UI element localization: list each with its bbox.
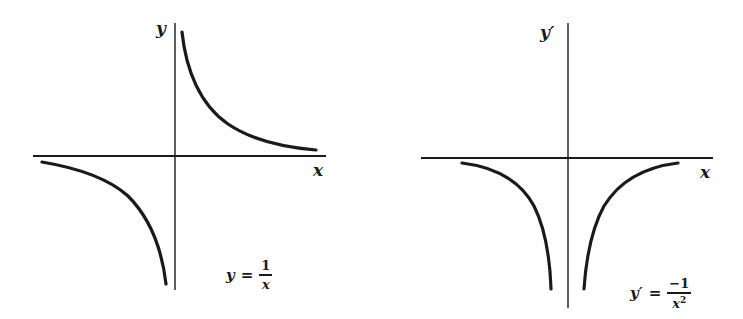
right-graph — [421, 23, 713, 308]
right-formula-denominator-base: x — [672, 296, 680, 311]
left-formula-denominator: x — [262, 276, 270, 292]
left-curve-upper-branch — [182, 32, 316, 150]
left-curve-lower-branch — [42, 162, 166, 284]
right-formula-numerator: −1 — [667, 276, 691, 292]
right-curve-left-branch — [462, 163, 551, 289]
right-formula-exponent: 2 — [680, 295, 686, 305]
right-x-axis-label: x — [700, 164, 710, 181]
left-graph — [33, 23, 326, 290]
left-formula-lhs: y — [226, 266, 235, 284]
right-formula-denominator: x2 — [672, 294, 686, 311]
right-formula-equals: = — [649, 284, 662, 302]
left-x-axis-label: x — [313, 162, 323, 179]
left-formula: y = 1 x — [226, 258, 272, 292]
left-formula-denominator-base: x — [262, 277, 270, 292]
right-formula-lhs: y′ — [630, 284, 643, 302]
right-y-axis-label: y′ — [540, 24, 554, 41]
right-formula-fraction: −1 x2 — [667, 276, 691, 311]
right-formula: y′ = −1 x2 — [630, 276, 691, 311]
right-curve-right-branch — [584, 163, 678, 289]
left-formula-numerator: 1 — [259, 258, 272, 274]
left-formula-fraction: 1 x — [259, 258, 272, 292]
left-y-axis-label: y — [156, 20, 166, 37]
figure-canvas — [0, 0, 743, 319]
left-formula-equals: = — [241, 266, 254, 284]
